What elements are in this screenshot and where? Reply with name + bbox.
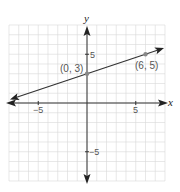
coordinate-plane [0, 0, 180, 192]
x-axis-label: x [168, 96, 173, 108]
point-marker [85, 72, 89, 76]
x-tick-label-neg5: −5 [33, 105, 43, 115]
x-tick-label-5: 5 [133, 105, 138, 115]
y-tick-label-neg5: −5 [89, 147, 99, 157]
point-label-0-3: (0, 3) [60, 63, 83, 74]
y-axis-label: y [84, 12, 89, 24]
point-label-6-5: (6, 5) [135, 60, 158, 71]
y-tick-label-5: 5 [90, 50, 95, 60]
point-marker [143, 52, 147, 56]
